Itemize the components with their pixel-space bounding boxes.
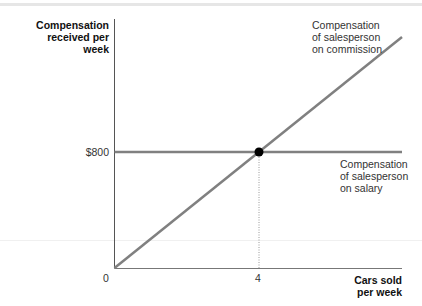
- x-axis-label-line: per week: [354, 286, 402, 298]
- intersection-point: [255, 148, 264, 157]
- origin-label: 0: [103, 272, 109, 284]
- salary-annotation: Compensation of salesperson on salary: [340, 158, 408, 194]
- commission-annotation: Compensation of salesperson on commissio…: [312, 19, 382, 55]
- y-axis-label-line: Compensation: [36, 19, 109, 31]
- x-axis-label-line: Cars sold: [354, 274, 402, 286]
- y-axis-label-line: week: [36, 43, 109, 55]
- x-tick-4: 4: [255, 272, 261, 284]
- annotation-line: on salary: [340, 182, 408, 194]
- annotation-line: on commission: [312, 43, 382, 55]
- annotation-line: of salesperson: [340, 170, 408, 182]
- y-tick-800: $800: [86, 146, 109, 158]
- y-axis-label: Compensation received per week: [36, 19, 109, 55]
- x-axis-label: Cars sold per week: [354, 274, 402, 298]
- annotation-line: Compensation: [340, 158, 408, 170]
- annotation-line: Compensation: [312, 19, 382, 31]
- annotation-line: of salesperson: [312, 31, 382, 43]
- y-axis-label-line: received per: [36, 31, 109, 43]
